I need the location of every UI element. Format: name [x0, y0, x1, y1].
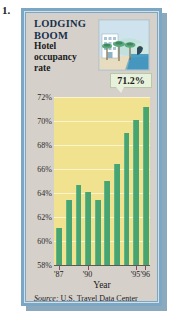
- subhead-line-3: rate: [34, 63, 96, 74]
- y-tick-label: 64%: [37, 189, 52, 198]
- source-note: Source: U.S. Travel Data Center: [34, 294, 152, 301]
- y-tick-label: 58%: [37, 261, 52, 270]
- y-tick-label: 72%: [37, 93, 52, 102]
- hotel-beach-illustration-icon: [98, 19, 150, 71]
- x-tick-label: '95: [131, 270, 140, 279]
- y-tick-label: 68%: [37, 141, 52, 150]
- callout-value: 71.2%: [111, 74, 151, 87]
- bar: [143, 107, 149, 265]
- headline-line-2: BOOM: [34, 30, 96, 42]
- y-tick-label: 60%: [37, 237, 52, 246]
- figure-card: LODGING BOOM Hotel occupancy rate: [26, 13, 157, 301]
- subhead-line-1: Hotel: [34, 41, 96, 52]
- figure-root: 1. LODGING BOOM Hotel occupancy rate: [0, 0, 173, 325]
- item-number: 1.: [2, 4, 10, 16]
- headline-line-1: LODGING: [34, 18, 96, 30]
- gridline: [54, 97, 150, 98]
- subhead-line-2: occupancy: [34, 52, 96, 63]
- bar: [85, 192, 91, 265]
- bar: [104, 181, 110, 265]
- x-tick-label: '96: [140, 270, 149, 279]
- x-tick-label: '90: [83, 270, 92, 279]
- bar: [124, 133, 130, 265]
- title-block: LODGING BOOM Hotel occupancy rate: [34, 18, 96, 74]
- plot-area: [54, 97, 150, 265]
- callout-tail-icon: [116, 87, 124, 93]
- bar: [95, 200, 101, 265]
- bar: [56, 228, 62, 265]
- hotel-beach-scene-svg: [99, 20, 149, 70]
- bar: [133, 120, 139, 265]
- bar: [76, 185, 82, 265]
- x-tick-label: '87: [54, 270, 63, 279]
- y-tick-label: 66%: [37, 165, 52, 174]
- source-label: Source:: [34, 294, 59, 301]
- x-axis-title: Year: [54, 280, 150, 290]
- data-callout: 71.2%: [110, 73, 152, 88]
- y-axis-labels: 58%60%62%64%66%68%70%72%: [26, 97, 54, 265]
- bar: [66, 200, 72, 265]
- y-tick-label: 62%: [37, 213, 52, 222]
- y-tick-label: 70%: [37, 117, 52, 126]
- bar: [114, 164, 120, 265]
- source-text: U.S. Travel Data Center: [61, 294, 138, 301]
